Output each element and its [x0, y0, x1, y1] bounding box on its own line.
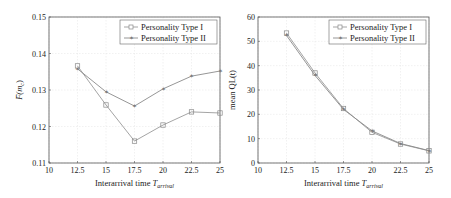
left-y-axis-ticks: 0.110.120.130.140.15 — [32, 13, 51, 168]
x-tick-label: 22.5 — [185, 166, 199, 175]
y-tick-label: 0.13 — [32, 86, 46, 95]
square-marker-icon — [129, 25, 133, 29]
right-legend-type-1: Personality Type I — [350, 22, 412, 32]
right-chart-queue-length: 0102030405060 1012.51517.52022.525 ✶✶✶✶✶… — [227, 13, 433, 189]
x-tick-label: 22.5 — [394, 166, 408, 175]
right-x-axis-label: Interarrival time Tarrival — [304, 178, 383, 189]
y-tick-label: 40 — [247, 62, 255, 71]
star-marker-icon: ✶ — [189, 72, 194, 79]
star-marker-icon: ✶ — [218, 67, 223, 74]
left-y-axis-label: F̄(mc) — [14, 80, 25, 101]
x-tick-label: 25 — [216, 166, 224, 175]
square-marker-icon — [338, 25, 342, 29]
star-marker-icon: ✶ — [284, 31, 289, 38]
right-legend: Personality Type I ✶ Personality Type II — [329, 20, 426, 44]
figure-canvas: 0.110.120.130.140.15 1012.51517.52022.52… — [0, 0, 451, 198]
y-tick-label: 0.15 — [32, 13, 46, 22]
y-tick-label: 10 — [247, 135, 255, 144]
x-tick-label: 17.5 — [337, 166, 351, 175]
right-y-axis-label: mean QL(t) — [227, 70, 237, 110]
star-marker-icon: ✶ — [370, 127, 375, 134]
right-legend-type-2: Personality Type II — [350, 33, 415, 43]
star-marker-icon: ✶ — [104, 88, 109, 95]
y-tick-label: 0.14 — [32, 50, 46, 59]
series-line — [78, 66, 221, 141]
star-marker-icon: ✶ — [341, 105, 346, 112]
series-line — [287, 33, 430, 151]
y-tick-label: 20 — [247, 110, 255, 119]
x-tick-label: 15 — [311, 166, 319, 175]
left-series: ✶✶✶✶✶✶ — [75, 64, 223, 144]
x-tick-label: 17.5 — [128, 166, 142, 175]
y-tick-label: 0.12 — [32, 123, 46, 132]
left-legend: Personality Type I ✶ Personality Type II — [120, 20, 217, 44]
right-series: ✶✶✶✶✶✶ — [284, 31, 432, 154]
y-tick-label: 50 — [247, 37, 255, 46]
x-tick-label: 12.5 — [71, 166, 85, 175]
y-tick-label: 60 — [247, 13, 255, 22]
star-marker-icon: ✶ — [75, 65, 80, 72]
y-tick-label: 0.11 — [32, 159, 46, 168]
left-legend-type-1: Personality Type I — [141, 22, 203, 32]
star-marker-icon: ✶ — [132, 102, 137, 109]
x-tick-label: 15 — [102, 166, 110, 175]
star-marker-icon: ✶ — [427, 147, 432, 154]
left-x-axis-label: Interarrival time Tarrival — [95, 178, 174, 189]
x-tick-label: 12.5 — [280, 166, 294, 175]
star-marker-icon: ✶ — [129, 34, 134, 41]
x-tick-label: 10 — [45, 166, 53, 175]
y-tick-label: 30 — [247, 86, 255, 95]
x-tick-label: 25 — [425, 166, 433, 175]
left-legend-type-2: Personality Type II — [141, 33, 206, 43]
series-line — [78, 69, 221, 106]
star-marker-icon: ✶ — [398, 140, 403, 147]
x-tick-label: 10 — [254, 166, 262, 175]
star-marker-icon: ✶ — [338, 34, 343, 41]
star-marker-icon: ✶ — [161, 85, 166, 92]
x-tick-label: 20 — [159, 166, 167, 175]
star-marker-icon: ✶ — [313, 71, 318, 78]
series-line — [287, 35, 430, 150]
left-chart-fitness: 0.110.120.130.140.15 1012.51517.52022.52… — [14, 13, 224, 189]
x-tick-label: 20 — [368, 166, 376, 175]
